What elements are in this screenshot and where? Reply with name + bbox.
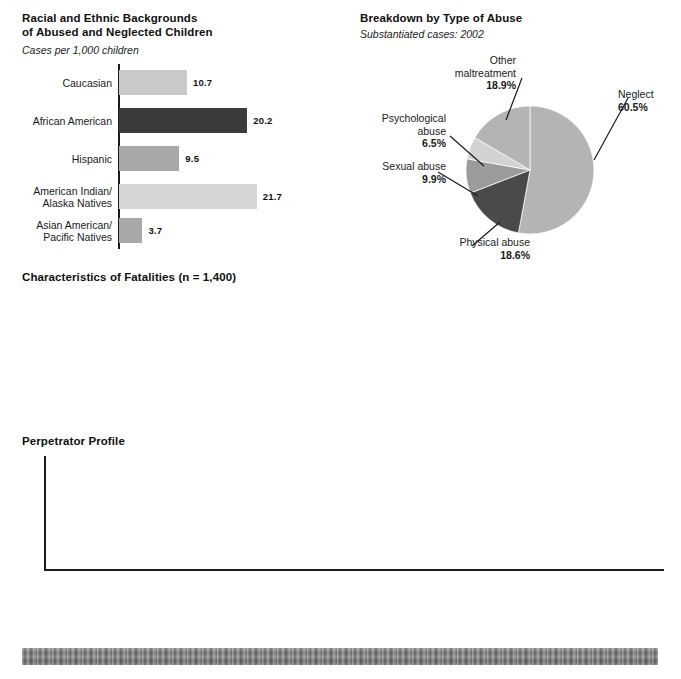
perpetrator-profile-chart: Perpetrator Profile xyxy=(0,430,681,630)
abuse-pie-callout: Physical abuse18.6% xyxy=(430,236,530,261)
fatalities-chart: Characteristics of Fatalities (n = 1,400… xyxy=(0,265,681,440)
abuse-pie-callout-value: 60.5% xyxy=(618,101,648,113)
abuse-pie-callout: Other maltreatment18.9% xyxy=(418,54,516,92)
racial-bar xyxy=(119,108,247,133)
racial-bar-value: 20.2 xyxy=(253,115,272,126)
abuse-pie-callout: Sexual abuse9.9% xyxy=(346,160,446,185)
racial-bar xyxy=(119,70,187,95)
racial-category-label: Asian American/ Pacific Natives xyxy=(0,219,112,243)
racial-bar-value: 3.7 xyxy=(148,225,162,236)
racial-category-label: African American xyxy=(0,115,112,127)
racial-bar xyxy=(119,146,179,171)
abuse-pie-callout-label: Neglect xyxy=(618,88,654,100)
abuse-pie-callout: Neglect60.5% xyxy=(618,88,678,113)
racial-bar-value: 10.7 xyxy=(193,77,212,88)
perpetrator-y-axis xyxy=(44,456,46,570)
racial-backgrounds-chart: Racial and Ethnic Backgrounds of Abused … xyxy=(0,0,340,270)
abuse-pie-callout-label: Physical abuse xyxy=(459,236,530,248)
abuse-pie-callout-label: Sexual abuse xyxy=(382,160,446,172)
abuse-pie-callout-label: Psychological abuse xyxy=(382,112,446,137)
racial-bar-value: 9.5 xyxy=(185,153,199,164)
perpetrator-x-axis xyxy=(44,569,664,571)
abuse-pie-callout: Psychological abuse6.5% xyxy=(350,112,446,150)
racial-chart-subtitle: Cases per 1,000 children xyxy=(22,44,139,57)
racial-category-label: Hispanic xyxy=(0,153,112,165)
abuse-breakdown-chart: Breakdown by Type of Abuse Substantiated… xyxy=(340,0,681,270)
footer-photo-strip xyxy=(22,648,658,665)
fatalities-pies-graphic xyxy=(0,265,681,385)
racial-category-label: American Indian/ Alaska Natives xyxy=(0,185,112,209)
abuse-pie-callout-label: Other maltreatment xyxy=(455,54,516,79)
perpetrator-title: Perpetrator Profile xyxy=(22,435,125,449)
abuse-pie-callout-value: 18.6% xyxy=(500,249,530,261)
abuse-pie-callout-value: 6.5% xyxy=(422,137,446,149)
racial-category-label: Caucasian xyxy=(0,77,112,89)
racial-bar-value: 21.7 xyxy=(263,191,282,202)
abuse-pie-callout-value: 9.9% xyxy=(422,173,446,185)
racial-chart-title: Racial and Ethnic Backgrounds of Abused … xyxy=(22,12,302,39)
racial-bar xyxy=(119,184,257,209)
racial-bar xyxy=(119,218,142,243)
abuse-pie-callout-value: 18.9% xyxy=(486,79,516,91)
